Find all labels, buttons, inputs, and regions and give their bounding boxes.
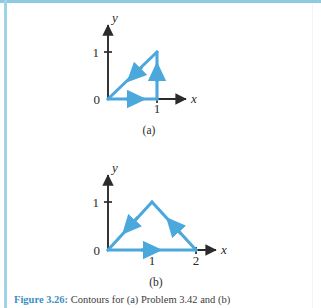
- figure-caption-text: Contours for (a) Problem 3.42 and (b): [68, 294, 230, 305]
- panel-a-sublabel: (a): [143, 124, 156, 137]
- figure-caption-label: Figure 3.26:: [14, 294, 68, 305]
- panel-a-x-axis-label: x: [190, 91, 197, 106]
- panel-a-y-axis-label: y: [110, 10, 118, 25]
- panel-b-sublabel: (b): [149, 276, 163, 289]
- panel-b: 0 1 1 2 x y (b): [93, 160, 228, 289]
- panel-b-y-tick-label-1: 1: [93, 195, 100, 210]
- figure-caption: Figure 3.26: Contours for (a) Problem 3.…: [14, 293, 310, 306]
- panel-b-origin-label: 0: [94, 243, 101, 258]
- panel-a-x-tick-label-1: 1: [154, 101, 161, 116]
- panel-b-x-tick-label-2: 2: [193, 253, 200, 268]
- panel-a-origin-label: 0: [94, 92, 101, 107]
- panel-a-segment-hypotenuse: [108, 52, 157, 99]
- panel-a-y-tick-label-1: 1: [93, 45, 100, 60]
- panel-b-x-tick-label-1: 1: [149, 253, 156, 268]
- panel-a: 0 1 1 x y (a): [93, 10, 198, 137]
- panel-b-arrow-left-icon: [129, 217, 138, 227]
- panel-b-x-axis-label: x: [220, 242, 227, 257]
- panel-b-y-axis-label: y: [110, 160, 118, 175]
- figure-page: 0 1 1 x y (a): [0, 0, 321, 308]
- contours-svg: 0 1 1 x y (a): [0, 0, 321, 290]
- panel-b-arrow-right-icon: [173, 225, 181, 234]
- figure-3-26: 0 1 1 x y (a): [0, 0, 321, 308]
